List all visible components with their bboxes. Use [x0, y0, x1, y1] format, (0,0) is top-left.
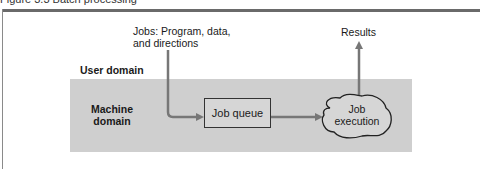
connectors [0, 0, 480, 169]
job-queue-box: Job queue [204, 98, 271, 128]
arrowhead-icon [355, 41, 363, 49]
job-execution-line1: Job [322, 103, 392, 115]
jobs-to-queue-arrow [168, 50, 198, 117]
job-execution-label: Job execution [322, 103, 392, 127]
job-execution-line2: execution [322, 115, 392, 127]
arrowhead-icon [196, 113, 204, 121]
job-queue-label: Job queue [212, 107, 263, 119]
